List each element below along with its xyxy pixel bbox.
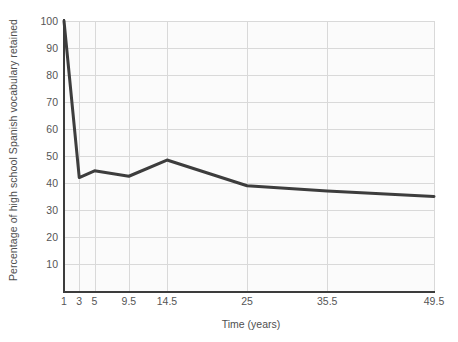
x-tick-label: 1 (61, 295, 67, 307)
y-axis-title: Percentage of high school Spanish vocabu… (7, 19, 19, 281)
chart-figure: Percentage of high school Spanish vocabu… (0, 0, 458, 342)
x-tick-label: 3 (76, 295, 82, 307)
y-tick-label: 40 (28, 177, 58, 189)
y-tick-label: 80 (28, 69, 58, 81)
x-tick-label: 14.5 (157, 295, 177, 307)
x-tick-label: 35.5 (317, 295, 337, 307)
x-axis-line (63, 291, 435, 293)
series-polyline (64, 21, 434, 197)
x-axis-title-container: Time (years) (0, 318, 458, 330)
x-tick-label: 25 (241, 295, 253, 307)
x-tick-label: 9.5 (122, 295, 137, 307)
x-axis-title: Time (years) (178, 318, 281, 330)
y-tick-label: 20 (28, 231, 58, 243)
y-tick-label: 10 (28, 258, 58, 270)
y-axis-title-container: Percentage of high school Spanish vocabu… (0, 0, 26, 300)
y-axis-line (63, 19, 65, 293)
plot-area (64, 21, 434, 291)
y-tick-label: 70 (28, 96, 58, 108)
y-tick-label: 100 (28, 15, 58, 27)
x-tick-label: 49.5 (424, 295, 444, 307)
line-series (64, 21, 434, 291)
y-tick-label: 50 (28, 150, 58, 162)
y-tick-label: 30 (28, 204, 58, 216)
y-tick-label: 90 (28, 42, 58, 54)
y-tick-label: 60 (28, 123, 58, 135)
gridline-vertical (434, 21, 435, 291)
x-tick-label: 5 (92, 295, 98, 307)
